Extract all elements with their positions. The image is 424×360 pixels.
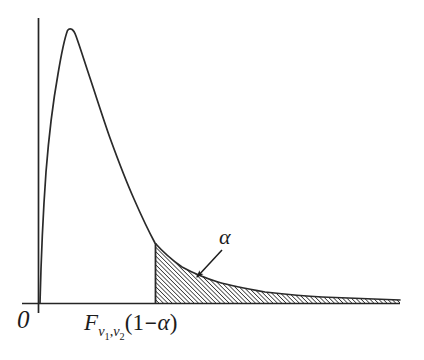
f-symbol: F [84,310,98,335]
f-distribution-figure: 0 α Fν1,ν2(1−α) [0,0,424,360]
critical-value-axis-label: Fν1,ν2(1−α) [84,311,178,342]
one-literal: 1 [133,310,145,335]
alpha-symbol-in-label: α [158,310,170,335]
density-curve [40,29,400,303]
alpha-annotation-arrow [197,250,222,277]
origin-axis-label: 0 [17,307,30,332]
close-paren: ) [170,310,178,335]
alpha-region-label: α [219,226,231,248]
alpha-shaded-tail-region [150,236,406,308]
distribution-plot-canvas [0,0,424,360]
open-paren: ( [125,310,133,335]
minus-sign: − [144,311,157,334]
